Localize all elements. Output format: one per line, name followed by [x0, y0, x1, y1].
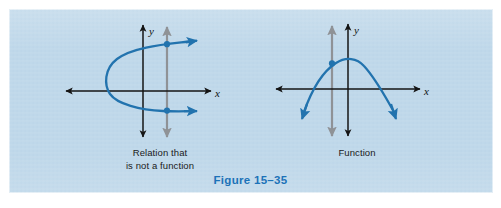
right-diagram-group: y x [276, 24, 429, 136]
right-function-curve [304, 59, 394, 112]
right-y-axis-label: y [353, 24, 359, 36]
left-x-axis-label: x [214, 87, 220, 99]
right-x-axis-label: x [423, 85, 429, 97]
right-intersection-dot [329, 60, 335, 66]
right-diagram-caption: Function [282, 147, 432, 160]
figure-caption: Figure 15–35 [0, 174, 501, 186]
figure-root: y x y x [0, 0, 501, 208]
right-curve-left-arrow [302, 104, 307, 119]
left-diagram-caption: Relation that is not a function [78, 147, 242, 172]
left-relation-curve [106, 41, 193, 111]
left-intersection-dot-upper [164, 41, 170, 47]
left-diagram-group: y x [66, 25, 220, 137]
left-y-axis-label: y [148, 25, 154, 37]
right-curve-right-arrow [391, 104, 396, 119]
left-intersection-dot-lower [164, 108, 170, 114]
